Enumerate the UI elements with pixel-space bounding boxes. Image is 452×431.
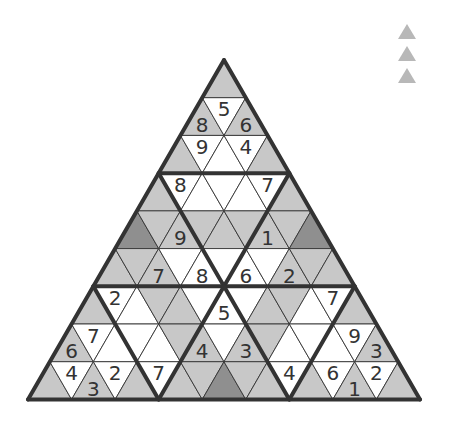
cell-number: 8 (174, 173, 187, 197)
cell-number: 9 (174, 226, 187, 250)
cell-number: 8 (196, 113, 209, 137)
cell-number: 7 (152, 264, 165, 288)
cell-number: 5 (218, 301, 231, 325)
cell-number: 2 (283, 264, 296, 288)
cell-number: 6 (239, 264, 252, 288)
cell-number: 3 (370, 339, 383, 363)
cell-number: 5 (218, 97, 231, 121)
legend (398, 24, 420, 90)
triangle-icon (398, 46, 416, 61)
cell-number: 4 (196, 339, 209, 363)
cell-number: 7 (327, 286, 340, 310)
puzzle-board: 856948791786225767439343274612 (0, 0, 452, 431)
cell-number: 7 (261, 173, 274, 197)
cell-number: 3 (87, 377, 100, 401)
cell-number: 6 (239, 113, 252, 137)
cell-number: 9 (348, 324, 361, 348)
cell-number: 4 (283, 361, 296, 385)
cell-number: 4 (239, 135, 252, 159)
cell-number: 2 (370, 361, 383, 385)
cell-number: 1 (261, 226, 274, 250)
puzzle-cell[interactable] (202, 60, 246, 98)
cell-number: 9 (196, 135, 209, 159)
cell-number: 1 (348, 377, 361, 401)
cell-number: 4 (65, 361, 78, 385)
cell-number: 2 (109, 286, 122, 310)
cell-number: 6 (65, 339, 78, 363)
cell-number: 8 (196, 264, 209, 288)
cell-number: 7 (87, 324, 100, 348)
cell-number: 3 (239, 339, 252, 363)
triangle-icon (398, 24, 416, 39)
cell-number: 6 (327, 361, 340, 385)
cell-number: 2 (109, 361, 122, 385)
cell-number: 7 (152, 361, 165, 385)
triangle-icon (398, 68, 416, 83)
